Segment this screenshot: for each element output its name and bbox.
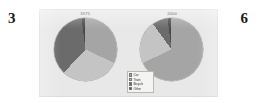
legend-row: Car bbox=[129, 73, 152, 77]
legend-swatch-icon bbox=[129, 87, 132, 90]
legend-label: Other bbox=[133, 87, 141, 91]
legend-swatch-icon bbox=[129, 78, 132, 81]
chart-slot-1975: 1975 bbox=[42, 9, 128, 97]
legend-swatch-icon bbox=[129, 73, 132, 76]
legend-label: Bicycle bbox=[133, 82, 143, 86]
figure-panel: 1975 2000 CarTrainBicycleOther bbox=[39, 9, 218, 97]
page-number-right: 6 bbox=[241, 11, 249, 26]
legend-label: Car bbox=[133, 73, 138, 77]
page-number-left: 3 bbox=[8, 11, 16, 26]
chart-title-1975: 1975 bbox=[42, 11, 128, 16]
chart-title-2000: 2000 bbox=[128, 11, 216, 16]
legend-row: Train bbox=[129, 78, 152, 82]
pie-chart-1975 bbox=[54, 18, 117, 81]
legend-row: Bicycle bbox=[129, 82, 152, 86]
legend-swatch-icon bbox=[129, 82, 132, 85]
legend-label: Train bbox=[133, 78, 140, 82]
legend-row: Other bbox=[129, 87, 152, 91]
chart-legend: CarTrainBicycleOther bbox=[127, 71, 154, 93]
